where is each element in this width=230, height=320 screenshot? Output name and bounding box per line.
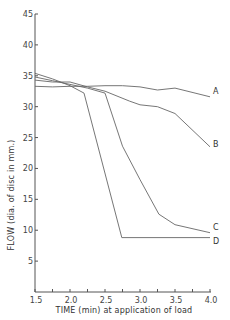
- flow-vs-time-chart: 51015202530354045 1.52.02.53.03.54.0 ABC…: [0, 0, 230, 320]
- x-tick-label: 4.0: [205, 296, 218, 305]
- y-tick-label: 10: [23, 226, 33, 235]
- series-label-c: C: [213, 223, 219, 232]
- y-axis-label: FLOW (dia. of disc in mm.): [7, 140, 16, 251]
- x-ticks: 1.52.02.53.03.54.0: [30, 289, 218, 305]
- y-ticks: 51015202530354045: [23, 10, 38, 266]
- y-tick-label: 20: [23, 164, 33, 173]
- y-tick-label: 30: [23, 103, 33, 112]
- axes: 51015202530354045 1.52.02.53.03.54.0: [23, 10, 218, 305]
- series-label-d: D: [213, 237, 219, 246]
- y-tick-label: 40: [23, 41, 33, 50]
- y-tick-label: 15: [23, 195, 33, 204]
- x-axis-label: TIME (min) at application of load: [55, 306, 193, 315]
- y-tick-label: 45: [23, 10, 33, 19]
- series-line-a: [35, 86, 210, 97]
- x-tick-label: 1.5: [30, 296, 43, 305]
- x-tick-label: 2.5: [100, 296, 113, 305]
- y-tick-label: 5: [28, 257, 33, 266]
- series-labels: ABCD: [213, 87, 219, 246]
- series-label-b: B: [213, 140, 219, 149]
- y-tick-label: 25: [23, 134, 33, 143]
- x-tick-label: 3.0: [135, 296, 148, 305]
- series-label-a: A: [213, 87, 219, 96]
- series-line-c: [35, 77, 210, 233]
- series-layer: [35, 73, 210, 237]
- x-tick-label: 3.5: [170, 296, 183, 305]
- x-tick-label: 2.0: [65, 296, 78, 305]
- y-tick-label: 35: [23, 72, 33, 81]
